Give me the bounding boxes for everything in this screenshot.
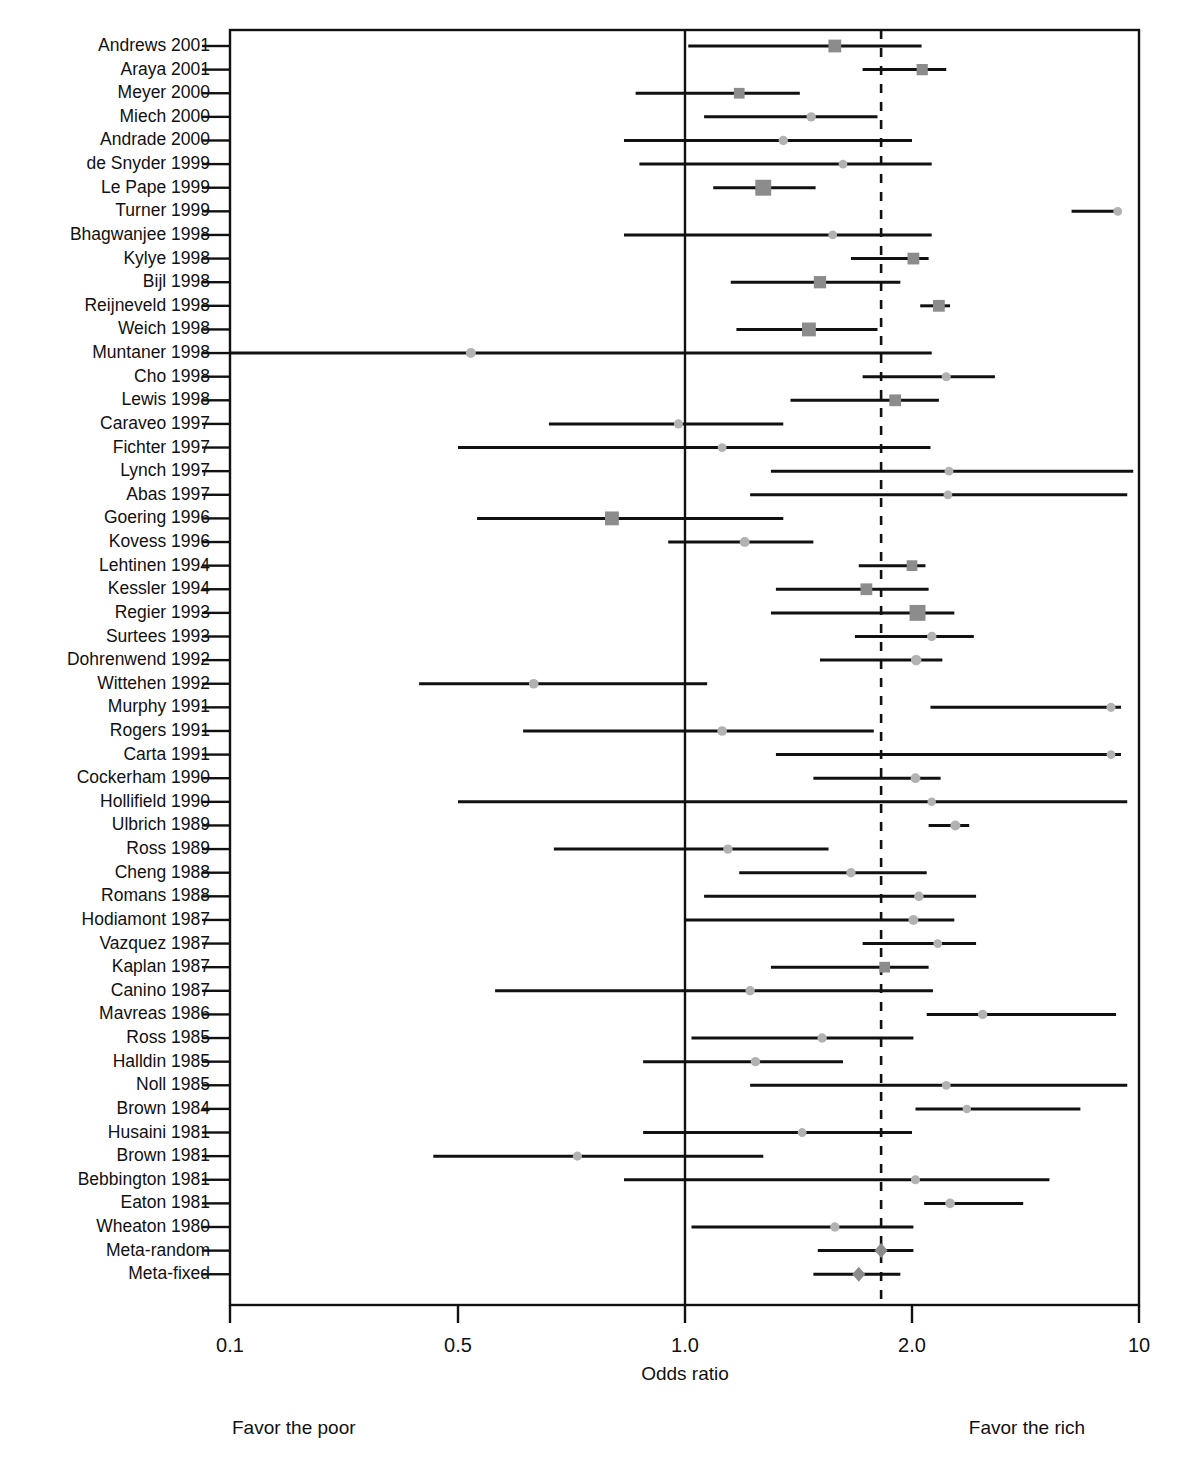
study-row bbox=[863, 64, 947, 75]
point-estimate-marker bbox=[911, 655, 922, 666]
point-estimate-marker bbox=[828, 40, 841, 53]
study-row bbox=[771, 962, 929, 973]
point-estimate-marker bbox=[1107, 750, 1116, 759]
study-row bbox=[859, 560, 926, 571]
point-estimate-marker bbox=[751, 1057, 760, 1066]
study-row bbox=[920, 300, 950, 312]
x-axis-tick-label: 1.0 bbox=[671, 1334, 699, 1356]
study-row bbox=[731, 276, 901, 288]
point-estimate-marker bbox=[1113, 207, 1122, 216]
x-axis-title: Odds ratio bbox=[641, 1363, 729, 1384]
study-row bbox=[433, 1152, 763, 1161]
point-estimate-marker bbox=[717, 726, 727, 736]
study-row bbox=[636, 88, 800, 99]
study-row bbox=[685, 915, 954, 925]
point-estimate-marker bbox=[529, 679, 539, 689]
study-row bbox=[813, 773, 940, 783]
study-row bbox=[230, 348, 932, 358]
study-rows bbox=[230, 40, 1133, 1282]
study-row bbox=[688, 40, 921, 53]
study-row bbox=[771, 605, 954, 621]
study-row bbox=[776, 750, 1121, 759]
point-estimate-marker bbox=[798, 1128, 807, 1137]
point-estimate-marker bbox=[573, 1152, 582, 1161]
study-row bbox=[1072, 207, 1123, 216]
point-estimate-marker bbox=[978, 1010, 987, 1019]
point-estimate-marker bbox=[927, 798, 936, 807]
point-estimate-marker bbox=[817, 1033, 826, 1042]
study-row bbox=[736, 323, 877, 337]
study-row bbox=[624, 231, 932, 240]
favor-poor-annotation: Favor the poor bbox=[232, 1417, 356, 1438]
point-estimate-marker bbox=[755, 180, 771, 196]
study-row bbox=[458, 798, 1127, 807]
study-row bbox=[704, 892, 976, 901]
point-estimate-marker bbox=[914, 892, 923, 901]
point-estimate-marker bbox=[879, 962, 890, 973]
point-estimate-marker bbox=[861, 583, 873, 595]
point-estimate-marker bbox=[911, 773, 921, 783]
study-row bbox=[915, 1105, 1080, 1114]
point-estimate-marker bbox=[908, 915, 918, 925]
summary-diamond-marker bbox=[875, 1243, 888, 1258]
point-estimate-marker bbox=[944, 490, 953, 499]
study-row bbox=[554, 844, 829, 853]
row-tick-marks bbox=[202, 46, 230, 1274]
point-estimate-marker bbox=[802, 323, 816, 337]
point-estimate-marker bbox=[911, 1175, 920, 1184]
forest-plot-figure: Andrews 2001Araya 2001Meyer 2000Miech 20… bbox=[0, 0, 1181, 1461]
study-row bbox=[863, 939, 976, 948]
study-row bbox=[643, 1057, 843, 1066]
study-row bbox=[477, 511, 783, 525]
study-row bbox=[750, 1081, 1127, 1090]
point-estimate-marker bbox=[734, 88, 745, 99]
point-estimate-marker bbox=[963, 1105, 972, 1114]
point-estimate-marker bbox=[718, 443, 727, 452]
study-row bbox=[739, 868, 927, 877]
point-estimate-marker bbox=[814, 276, 826, 288]
point-estimate-marker bbox=[933, 939, 942, 948]
study-row bbox=[419, 679, 707, 689]
point-estimate-marker bbox=[806, 112, 815, 121]
study-row bbox=[771, 467, 1133, 476]
point-estimate-marker bbox=[830, 1222, 839, 1231]
point-estimate-marker bbox=[740, 537, 750, 547]
study-row bbox=[924, 1199, 1023, 1209]
x-axis-tick-label: 0.5 bbox=[444, 1334, 472, 1356]
point-estimate-marker bbox=[466, 348, 476, 358]
point-estimate-marker bbox=[828, 231, 837, 240]
reference-lines bbox=[685, 30, 881, 1305]
point-estimate-marker bbox=[942, 372, 951, 381]
point-estimate-marker bbox=[605, 511, 619, 525]
point-estimate-marker bbox=[910, 605, 926, 621]
point-estimate-marker bbox=[779, 136, 788, 145]
study-row bbox=[863, 372, 995, 381]
study-row bbox=[704, 112, 877, 121]
x-axis-tick-label: 10 bbox=[1128, 1334, 1150, 1356]
x-axis bbox=[230, 1305, 1139, 1323]
x-axis-tick-label: 2.0 bbox=[898, 1334, 926, 1356]
point-estimate-marker bbox=[942, 1081, 951, 1090]
point-estimate-marker bbox=[917, 64, 928, 75]
point-estimate-marker bbox=[908, 253, 920, 265]
point-estimate-marker bbox=[674, 419, 683, 428]
study-row bbox=[549, 419, 783, 428]
point-estimate-marker bbox=[945, 1199, 955, 1209]
point-estimate-marker bbox=[839, 160, 848, 169]
point-estimate-marker bbox=[907, 560, 918, 571]
study-row bbox=[495, 986, 933, 995]
point-estimate-marker bbox=[846, 868, 855, 877]
point-estimate-marker bbox=[723, 844, 732, 853]
point-estimate-marker bbox=[927, 632, 936, 641]
study-row bbox=[930, 703, 1120, 712]
point-estimate-marker bbox=[933, 300, 945, 312]
summary-diamond-marker bbox=[852, 1267, 865, 1282]
study-row bbox=[643, 1128, 912, 1137]
point-estimate-marker bbox=[1106, 703, 1115, 712]
point-estimate-marker bbox=[950, 820, 960, 830]
point-estimate-marker bbox=[745, 986, 754, 995]
study-row bbox=[927, 1010, 1116, 1019]
study-row bbox=[790, 394, 938, 406]
point-estimate-marker bbox=[945, 467, 954, 476]
x-axis-tick-label: 0.1 bbox=[216, 1334, 244, 1356]
